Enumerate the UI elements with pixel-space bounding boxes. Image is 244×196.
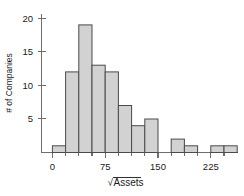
x-tick-label-75: 75 <box>100 161 111 172</box>
x-axis-title: √ Assets <box>108 177 144 188</box>
y-tick-label-5: 5 <box>28 113 33 124</box>
histogram-bar <box>105 72 118 153</box>
histogram-bar <box>66 72 79 153</box>
y-tick-label-10: 10 <box>22 80 33 91</box>
y-axis-title: # of Companies <box>4 53 14 113</box>
histogram-bar <box>184 146 197 153</box>
histogram-plot: 5 10 15 20 0 75 150 225 <box>0 0 244 196</box>
x-tick-labels: 0 75 150 225 <box>50 161 219 172</box>
histogram-bar <box>211 146 224 153</box>
x-tick-label-0: 0 <box>50 161 55 172</box>
histogram-bar <box>79 25 92 153</box>
histogram-bar <box>145 119 158 153</box>
y-tick-labels: 5 10 15 20 <box>22 13 33 125</box>
x-tick-label-150: 150 <box>150 161 166 172</box>
histogram-bar <box>92 65 105 152</box>
histogram-bar <box>118 106 131 153</box>
x-tick-label-225: 225 <box>203 161 219 172</box>
y-tick-label-20: 20 <box>22 13 33 24</box>
histogram-figure: 5 10 15 20 0 75 150 225 <box>0 0 244 196</box>
histogram-bar <box>52 146 65 153</box>
histogram-bars <box>52 25 237 153</box>
x-tick-marks <box>52 153 224 158</box>
y-tick-label-15: 15 <box>22 46 33 57</box>
histogram-bar <box>132 126 145 153</box>
histogram-bar <box>224 146 237 153</box>
histogram-bar <box>171 139 184 152</box>
x-axis-title-radicand: Assets <box>114 177 144 188</box>
